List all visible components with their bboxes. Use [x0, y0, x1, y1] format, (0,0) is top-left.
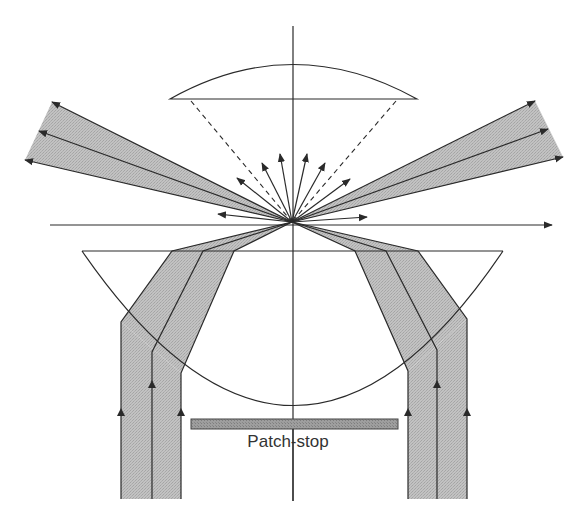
- exit-ray-left-2: [39, 131, 292, 222]
- patch-stop: [191, 419, 398, 429]
- exiting-cone-left: [25, 102, 292, 222]
- scattered-ray: [292, 154, 307, 222]
- exiting-cone-right: [292, 101, 563, 222]
- incident-beam-right: [292, 222, 467, 499]
- exit-ray-right-2: [292, 129, 548, 222]
- patch-stop-label: Patch-stop: [247, 432, 328, 451]
- diagram-canvas: Patch-stop: [0, 0, 581, 513]
- incident-beam-left: [121, 222, 292, 499]
- scattered-ray: [280, 154, 292, 222]
- ray-diagram: Patch-stop: [0, 0, 581, 513]
